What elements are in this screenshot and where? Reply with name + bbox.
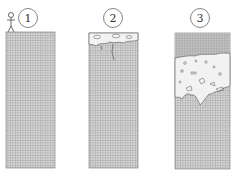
person-icon <box>7 13 15 33</box>
stage-1-number: 1 <box>25 12 32 25</box>
stage-1-block <box>6 32 55 168</box>
stage-2: 2 <box>89 9 138 169</box>
stage-1: 1 <box>6 9 55 169</box>
stage-2-number: 2 <box>110 12 117 25</box>
stage-3-number: 3 <box>197 12 204 25</box>
stage-3: 3 <box>175 9 230 170</box>
stage-2-block <box>89 33 138 168</box>
diagram: 1 2 3 <box>0 0 231 178</box>
